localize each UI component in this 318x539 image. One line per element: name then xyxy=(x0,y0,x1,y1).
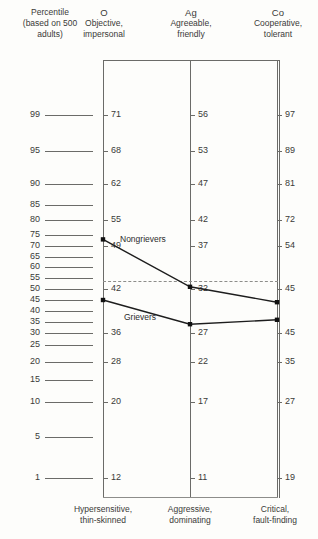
bottom-label-ag-line1: Aggressive, xyxy=(150,504,230,515)
bottom-label-o-line1: Hypersensitive, xyxy=(60,504,146,515)
series-label-nongrievers: Nongrievers xyxy=(120,235,166,244)
series-layer xyxy=(0,0,318,539)
percentile-profile-chart: Percentile (based on 500 adults) O Objec… xyxy=(0,0,318,539)
line-nongrievers xyxy=(103,239,277,302)
data-point-nongrievers-Co xyxy=(275,300,279,304)
data-point-nongrievers-O xyxy=(101,237,105,241)
data-point-grievers-O xyxy=(101,298,105,302)
points-nongrievers xyxy=(101,237,279,304)
bottom-label-co: Critical, fault-finding xyxy=(232,504,318,526)
series-label-grievers: Grievers xyxy=(124,313,156,322)
bottom-label-o: Hypersensitive, thin-skinned xyxy=(60,504,146,526)
bottom-label-o-line2: thin-skinned xyxy=(60,515,146,526)
bottom-label-ag: Aggressive, dominating xyxy=(150,504,230,526)
bottom-label-ag-line2: dominating xyxy=(150,515,230,526)
bottom-label-co-line1: Critical, xyxy=(232,504,318,515)
data-point-grievers-Ag xyxy=(188,322,192,326)
bottom-label-co-line2: fault-finding xyxy=(232,515,318,526)
data-point-nongrievers-Ag xyxy=(188,285,192,289)
data-point-grievers-Co xyxy=(275,318,279,322)
